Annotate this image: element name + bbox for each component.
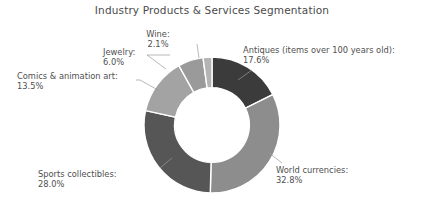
slice-label-comics-animation-art-name: Comics & animation art: bbox=[17, 71, 118, 81]
donut-slices bbox=[144, 57, 280, 193]
slice-label-sports-collectibles: Sports collectibles: 28.0% bbox=[38, 169, 117, 190]
slice-label-comics-animation-art-value: 13.5% bbox=[17, 81, 118, 91]
slice-label-world-currencies: World currencies: 32.8% bbox=[276, 165, 348, 186]
leader-line bbox=[140, 80, 158, 90]
slice-label-world-currencies-value: 32.8% bbox=[276, 175, 348, 185]
slice-label-jewelry: Jewelry: 6.0% bbox=[103, 47, 135, 68]
slice-label-jewelry-value: 6.0% bbox=[103, 57, 135, 67]
slice-label-antiques: Antiques (items over 100 years old): 17.… bbox=[243, 45, 395, 66]
leader-line bbox=[147, 55, 166, 69]
slice-label-comics-animation-art: Comics & animation art: 13.5% bbox=[17, 71, 118, 92]
slice-label-antiques-name: Antiques (items over 100 years old): bbox=[243, 45, 395, 55]
slice-label-wine-name: Wine: bbox=[118, 29, 198, 39]
slice-label-sports-collectibles-value: 28.0% bbox=[38, 179, 117, 189]
slice-label-world-currencies-name: World currencies: bbox=[276, 165, 348, 175]
donut-slice[interactable] bbox=[144, 111, 211, 193]
slice-label-antiques-value: 17.6% bbox=[243, 55, 395, 65]
slice-label-sports-collectibles-name: Sports collectibles: bbox=[38, 169, 117, 179]
slice-label-jewelry-name: Jewelry: bbox=[103, 47, 135, 57]
donut-chart-figure: Industry Products & Services Segmentatio… bbox=[0, 0, 424, 217]
donut-slice[interactable] bbox=[210, 95, 280, 193]
